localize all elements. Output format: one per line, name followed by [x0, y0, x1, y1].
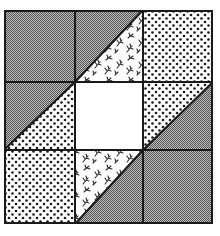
fabric-white [75, 82, 143, 150]
fabric-gray [143, 150, 213, 224]
quilt-block-drawing [4, 10, 213, 224]
quilt-cell-r0-c0 [4, 10, 75, 82]
fabric-dots [4, 150, 75, 224]
fabric-gray [4, 10, 75, 82]
quilt-cell-r1-c1 [75, 82, 143, 150]
fabric-dots [143, 10, 213, 82]
quilt-cell-r0-c2 [143, 10, 213, 82]
cells-layer [4, 10, 213, 224]
quilt-cell-r2-c0 [4, 150, 75, 224]
quilt-cell-r2-c2 [143, 150, 213, 224]
quilt-block [4, 10, 213, 224]
